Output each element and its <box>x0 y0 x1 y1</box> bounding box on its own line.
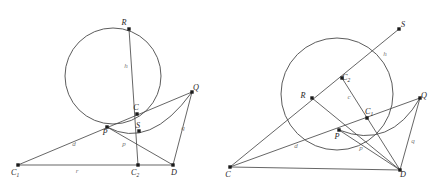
geometry-figure-svg: RQCSPC1C2D hqdrp SQRC2C1PCD hcqdp <box>0 0 444 186</box>
point-label-Q: Q <box>193 83 199 92</box>
vertex-point-R <box>127 27 130 30</box>
segment-R-C2 <box>129 29 138 165</box>
point-label-R: R <box>299 91 305 100</box>
label-q: q <box>181 124 185 132</box>
vertex-point-D <box>171 163 174 166</box>
point-label-C2: C2 <box>131 168 139 178</box>
left-segments <box>18 29 192 165</box>
segment-C-D <box>230 167 400 170</box>
point-subscript-C2: 2 <box>347 77 350 83</box>
label-d: d <box>72 140 76 148</box>
left-point-labels: RQCSPC1C2D <box>11 18 199 178</box>
arc-P-Q <box>107 92 192 134</box>
label-d: d <box>294 142 298 150</box>
point-label-S: S <box>136 121 140 130</box>
label-r: r <box>76 167 79 175</box>
vertex-point-C <box>135 112 138 115</box>
point-label-C1: C1 <box>11 168 19 178</box>
label-h: h <box>124 62 128 70</box>
point-label-C1: C1 <box>365 107 373 117</box>
vertex-point-C <box>228 165 231 168</box>
right-construction: SQRC2C1PCD hcqdp <box>225 20 427 179</box>
point-subscript-C1: 1 <box>370 111 373 117</box>
point-label-P: P <box>333 132 339 141</box>
point-label-C2: C2 <box>342 73 350 83</box>
label-q: q <box>411 137 415 145</box>
segment-C-S <box>230 29 399 167</box>
left-vertex-dots <box>16 27 193 166</box>
segment-R-D <box>312 98 400 170</box>
left-construction: RQCSPC1C2D hqdrp <box>11 18 199 178</box>
point-label-R: R <box>120 18 126 27</box>
vertex-point-R <box>310 96 313 99</box>
point-label-S: S <box>401 20 405 29</box>
vertex-point-C1 <box>16 163 19 166</box>
point-subscript-C1: 1 <box>16 172 19 178</box>
label-c: c <box>347 93 351 101</box>
right-point-labels: SQRC2C1PCD <box>225 20 427 179</box>
figure-root: RQCSPC1C2D hqdrp SQRC2C1PCD hcqdp <box>0 0 444 186</box>
point-label-C: C <box>225 170 231 179</box>
label-p: p <box>358 144 363 152</box>
segment-P-D <box>339 130 400 170</box>
left-circle <box>65 28 161 124</box>
label-h: h <box>383 50 387 58</box>
point-label-P: P <box>101 128 107 137</box>
point-subscript-C2: 2 <box>136 172 139 178</box>
point-label-D: D <box>170 168 177 177</box>
segment-Q-D <box>400 98 420 170</box>
label-p: p <box>121 140 126 148</box>
point-label-D: D <box>399 170 406 179</box>
point-label-C: C <box>133 103 139 112</box>
vertex-point-C2 <box>136 163 139 166</box>
point-label-Q: Q <box>421 91 427 100</box>
vertex-point-C1 <box>365 116 368 119</box>
chord-C2-D <box>342 78 400 170</box>
